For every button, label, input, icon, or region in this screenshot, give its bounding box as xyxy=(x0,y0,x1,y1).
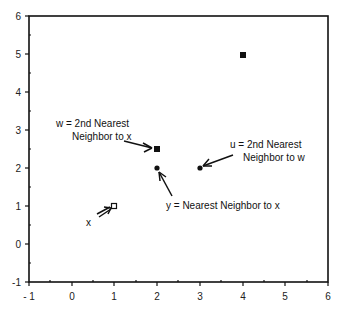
point-w-filled-square xyxy=(154,146,160,152)
x-axis-ticks xyxy=(29,280,328,286)
y-tick-labels: 6 5 4 3 2 1 0 -1 xyxy=(12,11,21,288)
y-tick-label: -1 xyxy=(12,277,21,288)
arrow-w xyxy=(124,141,152,148)
annotation-w-line1: w = 2nd Nearest xyxy=(55,118,129,129)
arrow-y xyxy=(159,172,172,196)
y-tick-label: 1 xyxy=(15,201,21,212)
annotation-x: x xyxy=(86,217,91,228)
annotation-u-line2: Neighbor to w xyxy=(243,152,305,163)
y-axis-ticks xyxy=(25,16,31,282)
annotation-w-line2: Neighbor to x xyxy=(72,131,131,142)
y-tick-label: 2 xyxy=(15,163,21,174)
x-tick-label: 4 xyxy=(240,291,246,302)
annotation-y: y = Nearest Neighbor to x xyxy=(166,200,280,211)
y-tick-label: 0 xyxy=(15,239,21,250)
annotation-u-line1: u = 2nd Nearest xyxy=(230,139,302,150)
point-u-dot xyxy=(197,165,202,170)
y-tick-label: 5 xyxy=(15,49,21,60)
x-tick-label: 3 xyxy=(197,291,203,302)
point-4-5-filled-square xyxy=(240,52,246,58)
point-y-dot xyxy=(154,165,159,170)
x-tick-label: 1 xyxy=(111,291,117,302)
x-tick-label: 0 xyxy=(69,291,75,302)
y-tick-label: 6 xyxy=(15,11,21,22)
y-tick-label: 3 xyxy=(15,125,21,136)
annotations: w = 2nd Nearest Neighbor to x u = 2nd Ne… xyxy=(55,118,305,228)
x-tick-label: 2 xyxy=(154,291,160,302)
scatter-chart: 6 5 4 3 2 1 0 -1 - 1 0 1 2 3 4 5 6 xyxy=(0,0,342,313)
y-tick-label: 4 xyxy=(15,87,21,98)
x-tick-label: 6 xyxy=(325,291,331,302)
x-tick-label: 5 xyxy=(282,291,288,302)
point-x-open-square xyxy=(112,204,117,209)
x-tick-labels: - 1 0 1 2 3 4 5 6 xyxy=(23,291,331,302)
x-tick-label: - 1 xyxy=(23,291,35,302)
